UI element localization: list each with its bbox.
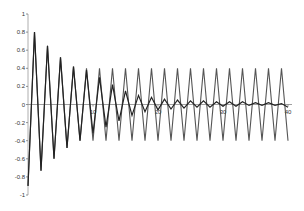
y-tick-label: 0.2: [17, 83, 26, 89]
y-tick-label: 0: [22, 102, 26, 108]
y-tick-label: -0.4: [15, 138, 26, 144]
line-chart: 10.80.60.40.20-0.2-0.4-0.6-0.8-1 1020304…: [0, 0, 304, 211]
y-tick-label: -1: [20, 192, 26, 198]
y-tick-label: -0.2: [15, 120, 26, 126]
y-tick-label: 1: [22, 11, 26, 17]
y-tick-label: -0.8: [15, 174, 26, 180]
series-layer: [28, 32, 288, 186]
y-tick-label: 0.8: [17, 29, 26, 35]
y-tick-label: -0.6: [15, 156, 26, 162]
series-line-damped: [28, 32, 288, 186]
y-tick-label: 0.4: [17, 65, 26, 71]
y-axis: 10.80.60.40.20-0.2-0.4-0.6-0.8-1: [15, 11, 28, 198]
y-tick-label: 0.6: [17, 47, 26, 53]
